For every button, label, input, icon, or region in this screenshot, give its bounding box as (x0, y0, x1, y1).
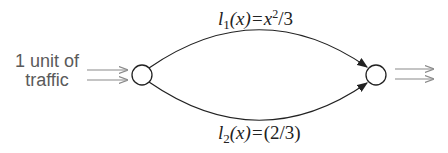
sink-node (366, 65, 386, 85)
network-diagram: 1 unit of traffic l1(x)=x2/3 l2(x)=(2/3) (0, 0, 448, 153)
top-edge (149, 30, 367, 68)
bottom-edge-latency-label: l2(x)=(2/3) (218, 122, 301, 146)
top-edge-latency-label: l1(x)=x2/3 (218, 7, 293, 32)
input-arrows (87, 70, 127, 80)
bottom-edge (149, 82, 367, 120)
source-label-line1: 1 unit of (15, 51, 80, 71)
source-label-line2: traffic (25, 70, 69, 90)
output-arrows (395, 69, 433, 79)
